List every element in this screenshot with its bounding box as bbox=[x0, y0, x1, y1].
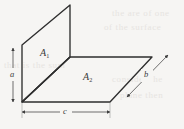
dimension-label-c: c bbox=[63, 106, 67, 116]
dimension-label-b: b bbox=[144, 69, 148, 79]
area-label-a2: A2 bbox=[83, 71, 92, 82]
shared-edge-line bbox=[22, 57, 70, 102]
area-label-a1: A1 bbox=[40, 47, 49, 58]
dimension-label-a: a bbox=[10, 69, 14, 79]
figure-drawing bbox=[0, 0, 184, 129]
figure-container: the are of one of the surface that is th… bbox=[0, 0, 184, 129]
area-label-a1-subscript: 1 bbox=[46, 52, 49, 59]
area-label-a2-subscript: 2 bbox=[89, 76, 92, 83]
